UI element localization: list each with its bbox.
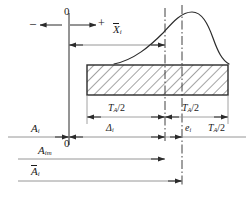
zero-label-top: 0 xyxy=(64,6,70,17)
tolerance-right-tail: /2 xyxy=(191,102,199,113)
a-im-subscript: im xyxy=(45,149,52,156)
delta-i-label: Δi xyxy=(106,123,114,133)
tolerance-bar-fill xyxy=(87,65,228,95)
x-bar-i-subscript: i xyxy=(120,28,122,35)
distribution-curve xyxy=(114,12,229,64)
a-i-base: A xyxy=(31,122,38,134)
a-im-label: Aim xyxy=(38,145,52,157)
minus-sign-label: – xyxy=(30,17,36,29)
a-im-base: A xyxy=(38,144,45,156)
e-i-label: ei xyxy=(185,123,191,133)
e-i-subscript: i xyxy=(189,126,191,133)
zero-label-bottom: 0 xyxy=(64,138,70,149)
tolerance-diagram: 0 – + Xi TA/2 TA/2 TA/2 Δi ei 0 Ai Aim A… xyxy=(0,0,248,199)
a-i-label: Ai xyxy=(31,123,40,135)
a-bar-i-label: Ai xyxy=(31,166,40,178)
tolerance-right-label: TA/2 xyxy=(182,103,199,113)
x-bar-i-base: X xyxy=(113,24,120,35)
a-bar-i-subscript: i xyxy=(38,170,40,177)
tolerance-left-tail: /2 xyxy=(117,102,125,113)
a-i-subscript: i xyxy=(38,127,40,134)
a-bar-i-base: A xyxy=(31,166,38,177)
plus-sign-label: + xyxy=(98,17,105,29)
delta-i-subscript: i xyxy=(112,126,114,133)
tolerance-left-label: TA/2 xyxy=(108,103,125,113)
tolerance-far-right-tail: /2 xyxy=(217,122,225,133)
tolerance-far-right-label: TA/2 xyxy=(208,123,225,133)
x-bar-i-label: Xi xyxy=(113,24,122,36)
